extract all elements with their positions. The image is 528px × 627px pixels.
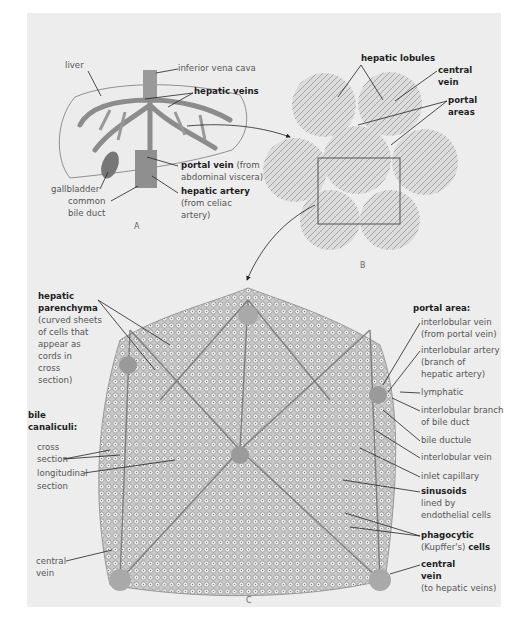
label-bile-ductule: bile ductule [421,435,471,447]
label-inlet-capillary: inlet capillary [421,471,479,483]
label-liver: liver [65,60,84,72]
label-bile-canaliculi-1: bile [28,410,46,422]
label-hepatic-artery-note-2: artery) [181,210,210,222]
label-bile-canaliculi-2: canaliculi: [28,422,77,434]
label-portal-areas-1: portal [448,95,477,107]
label-interlobular-artery-1: interlobular artery [421,345,500,357]
label-longitudinal-2: section [37,481,68,493]
label-hepatic-parenchyma-1: hepatic [38,291,74,303]
label-inferior-vena-cava: inferior vena cava [178,63,256,75]
label-portal-areas-2: areas [448,107,475,119]
label-common-bile-duct-2: bile duct [68,208,105,220]
label-portal-area: portal area: [413,303,470,315]
label-interlobular-vein-2: (from portal vein) [421,329,497,341]
label-kupffer-cells: (Kupffer's) cells [421,542,490,554]
label-interlobular-branch-2: of bile duct [421,417,469,429]
label-central-vein-c-left-1: central [36,556,66,568]
label-portal-vein: portal vein (from [181,160,260,172]
label-hepatic-artery: hepatic artery [181,186,250,198]
label-cross-section-1: cross [37,442,59,454]
label-longitudinal-1: longitudinal [37,468,88,480]
label-parenchyma-note-3: appear as [38,339,81,351]
label-interlobular-branch-1: interlobular branch [421,405,503,417]
label-central-vein-note: (to hepatic veins) [421,583,496,595]
label-central-vein-b-1: central [438,65,472,77]
label-parenchyma-note-1: (curved sheets [38,315,102,327]
label-hepatic-lobules: hepatic lobules [361,53,435,65]
label-central-vein-b-2: vein [438,77,459,89]
label-cross-section-2: section [37,454,68,466]
label-hepatic-parenchyma-2: parenchyma [38,303,98,315]
label-hepatic-artery-note-1: (from celiac [181,198,232,210]
label-interlobular-artery-3: hepatic artery) [421,369,485,381]
lobules-illustration [263,72,458,250]
label-sinusoids: sinusoids [421,486,467,498]
label-interlobular-artery-2: (branch of [421,357,465,369]
label-sinusoids-note-1: lined by [421,498,455,510]
label-parenchyma-note-4: cords in [38,351,72,363]
label-lymphatic: lymphatic [421,387,464,399]
panel-letter-c: C [246,596,252,605]
label-phagocytic: phagocytic [421,530,474,542]
label-parenchyma-note-5: cross [38,363,60,375]
label-hepatic-veins: hepatic veins [194,86,259,98]
label-central-vein-c-right-1: central [421,559,455,571]
label-portal-vein-note: abdominal viscera) [181,172,263,184]
panel-letter-a: A [134,222,139,231]
lobule-cross-section [99,288,396,596]
label-interlobular-vein-1: interlobular vein [421,317,492,329]
panel-letter-b: B [360,261,366,270]
label-gallbladder: gallbladder [51,184,99,196]
label-interlobular-vein-b: interlobular vein [421,452,492,464]
label-common-bile-duct-1: common [68,196,105,208]
label-central-vein-c-right-2: vein [421,571,442,583]
label-parenchyma-note-2: of cells that [38,327,88,339]
label-sinusoids-note-2: endothelial cells [421,510,491,522]
label-central-vein-c-left-2: vein [36,568,54,580]
label-parenchyma-note-6: section) [38,375,72,387]
